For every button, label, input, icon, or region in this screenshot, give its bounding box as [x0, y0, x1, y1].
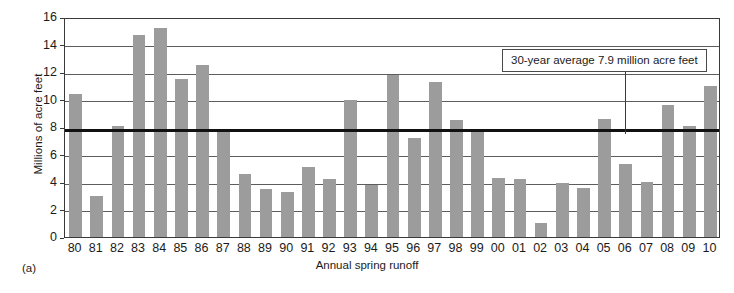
panel-caption: (a) [22, 262, 36, 274]
y-tick-label-10: 10 [17, 93, 57, 107]
bar-91 [302, 167, 315, 237]
bar-89 [260, 189, 273, 237]
bar-98 [450, 120, 463, 237]
y-tick-mark-2 [60, 210, 64, 211]
bar-80 [69, 94, 82, 237]
bar-05 [598, 119, 611, 237]
y-tick-label-0: 0 [17, 230, 57, 244]
y-tick-label-2: 2 [17, 203, 57, 217]
bar-95 [387, 75, 400, 237]
bar-09 [683, 126, 696, 237]
y-tick-mark-8 [60, 128, 64, 129]
y-tick-mark-6 [60, 155, 64, 156]
bar-03 [556, 183, 569, 237]
bar-02 [535, 223, 548, 237]
bar-06 [619, 164, 632, 237]
bar-81 [90, 196, 103, 237]
bar-93 [344, 100, 357, 238]
bar-87 [217, 131, 230, 237]
y-tick-mark-0 [60, 238, 64, 239]
bar-96 [408, 138, 421, 237]
average-annotation: 30-year average 7.9 million acre feet [502, 49, 707, 72]
y-tick-label-6: 6 [17, 148, 57, 162]
y-tick-mark-14 [60, 45, 64, 46]
y-tick-label-8: 8 [17, 120, 57, 134]
bar-90 [281, 192, 294, 237]
bar-07 [641, 182, 654, 237]
y-tick-mark-16 [60, 18, 64, 19]
y-tick-label-16: 16 [17, 10, 57, 24]
bar-92 [323, 179, 336, 237]
bar-10 [704, 86, 717, 237]
y-tick-mark-12 [60, 73, 64, 74]
bar-04 [577, 188, 590, 238]
bar-00 [492, 178, 505, 237]
x-axis-title: Annual spring runoff [0, 259, 734, 271]
bar-94 [365, 185, 378, 237]
y-tick-mark-4 [60, 183, 64, 184]
y-tick-label-14: 14 [17, 38, 57, 52]
y-tick-label-12: 12 [17, 65, 57, 79]
average-reference-line [65, 129, 719, 132]
bar-83 [133, 35, 146, 237]
bar-01 [514, 179, 527, 237]
bar-86 [196, 65, 209, 237]
y-tick-label-4: 4 [17, 175, 57, 189]
annotation-leader-line [625, 72, 626, 134]
bar-08 [662, 105, 675, 237]
bar-97 [429, 82, 442, 237]
bar-99 [471, 131, 484, 237]
x-tick-label-10: 10 [694, 241, 724, 255]
bar-82 [112, 126, 125, 237]
bar-85 [175, 79, 188, 237]
bar-88 [239, 174, 252, 237]
y-tick-mark-10 [60, 100, 64, 101]
bar-84 [154, 28, 167, 237]
runoff-bar-chart-figure: Millions of acre feet 0246810121416 8081… [0, 0, 734, 293]
